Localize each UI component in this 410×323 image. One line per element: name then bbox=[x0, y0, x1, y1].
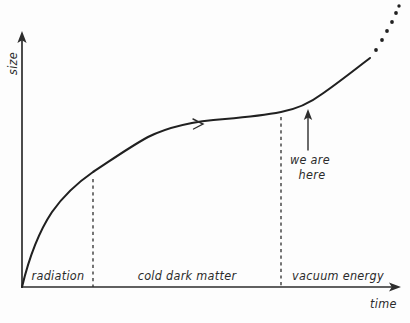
future-dot bbox=[397, 4, 400, 7]
x-axis-label: time bbox=[370, 296, 397, 311]
future-dot bbox=[380, 38, 384, 42]
expansion-curve-group bbox=[22, 4, 401, 287]
era-label-cold-dark-matter: cold dark matter bbox=[138, 268, 238, 283]
we-are-here-label-line2: here bbox=[299, 167, 326, 182]
future-continuation-dots bbox=[374, 4, 401, 52]
era-label-radiation: radiation bbox=[32, 268, 85, 283]
diagram-canvas: size time we are bbox=[0, 0, 410, 323]
era-labels-group: radiation cold dark matter vacuum energy bbox=[32, 268, 384, 283]
we-are-here-annotation: we are here bbox=[290, 109, 330, 182]
future-dot bbox=[374, 48, 378, 52]
era-dividers-group bbox=[93, 117, 281, 287]
y-axis-label: size bbox=[5, 52, 20, 75]
expansion-diagram-figure: size time we are bbox=[0, 0, 410, 323]
era-label-vacuum-energy: vacuum energy bbox=[292, 268, 384, 283]
future-dot bbox=[390, 20, 394, 24]
axes-group bbox=[17, 31, 401, 292]
future-dot bbox=[394, 11, 398, 15]
we-are-here-label-line1: we are bbox=[290, 152, 330, 167]
future-dot bbox=[385, 29, 389, 33]
